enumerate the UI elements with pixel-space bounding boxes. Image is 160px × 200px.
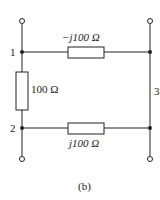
terminal-top-right: [148, 19, 153, 24]
node-2-label: 2: [10, 123, 16, 134]
circuit-diagram: [0, 0, 160, 200]
node-3-label: 3: [154, 86, 160, 97]
node-2-dot: [20, 126, 24, 130]
node-1-dot: [20, 50, 24, 54]
bottom-impedance: [68, 123, 104, 134]
figure-caption: (b): [78, 181, 91, 192]
left-resistor: [16, 72, 28, 110]
bottom-impedance-label: j100 Ω: [69, 138, 99, 149]
node-3-top-dot: [148, 50, 152, 54]
terminal-bottom-left: [20, 157, 25, 162]
top-impedance-label: −j100 Ω: [62, 32, 100, 43]
node-3-bottom-dot: [148, 126, 152, 130]
node-1-label: 1: [10, 47, 16, 58]
terminal-bottom-right: [148, 157, 153, 162]
terminal-top-left: [20, 19, 25, 24]
left-resistor-label: 100 Ω: [31, 84, 58, 95]
top-impedance: [68, 47, 104, 58]
